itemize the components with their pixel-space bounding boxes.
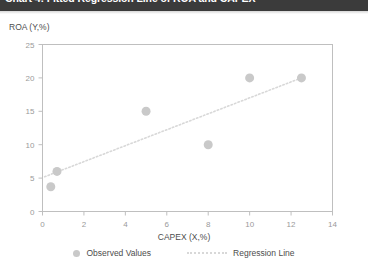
legend-label-observed-values: Observed Values — [86, 248, 151, 258]
y-tick-label: 15 — [26, 107, 35, 116]
dotted-line-marker-icon — [187, 252, 227, 254]
data-point — [142, 107, 151, 116]
y-tick-label: 0 — [30, 208, 35, 217]
x-tick-label: 2 — [82, 220, 87, 229]
x-axis-ticks: 02468101214 — [40, 212, 337, 229]
y-tick-label: 10 — [26, 141, 35, 150]
legend-item-regression-line: Regression Line — [187, 248, 294, 258]
y-axis-ticks: 0510152025 — [26, 41, 43, 217]
y-tick-label: 20 — [26, 74, 35, 83]
x-tick-label: 4 — [123, 220, 128, 229]
chart-legend: Observed Values Regression Line — [0, 248, 368, 258]
plot-area: 0510152025 02468101214 — [0, 0, 368, 269]
x-tick-label: 6 — [165, 220, 170, 229]
data-point — [297, 73, 306, 82]
chart-svg: 0510152025 02468101214 — [0, 0, 368, 269]
data-point — [245, 73, 254, 82]
x-tick-label: 0 — [40, 220, 45, 229]
regression-line — [45, 78, 302, 177]
legend-item-observed-values: Observed Values — [73, 248, 151, 258]
x-tick-label: 10 — [245, 220, 254, 229]
dot-marker-icon — [73, 250, 80, 257]
y-tick-label: 5 — [30, 174, 35, 183]
data-point — [53, 167, 62, 176]
axis-frame — [43, 45, 333, 212]
chart-page: Chart 4: Fitted Regression Line of ROA a… — [0, 0, 368, 269]
data-point — [46, 182, 55, 191]
x-tick-label: 8 — [206, 220, 211, 229]
x-tick-label: 14 — [328, 220, 337, 229]
data-point — [204, 140, 213, 149]
legend-label-regression-line: Regression Line — [233, 248, 294, 258]
y-tick-label: 25 — [26, 41, 35, 50]
x-tick-label: 12 — [287, 220, 296, 229]
